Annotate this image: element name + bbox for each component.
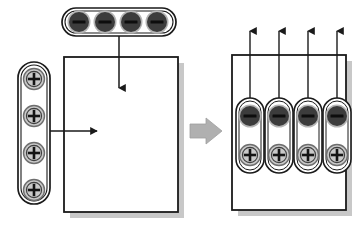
anion-ion	[94, 11, 117, 34]
ion-pair-capsule	[294, 98, 322, 173]
anion-ion	[297, 105, 320, 128]
ion-pair-capsule	[265, 98, 293, 173]
anion-ion	[146, 11, 169, 34]
anion-ion	[120, 11, 143, 34]
ion-pair-capsule	[236, 98, 264, 173]
cation-ion	[24, 69, 45, 90]
ion-pair-capsule	[323, 98, 351, 173]
anion-ion	[326, 105, 349, 128]
left-stage-group	[18, 8, 184, 218]
cation-ion	[298, 145, 319, 166]
anion-row-capsule	[62, 8, 176, 36]
anion-ion	[239, 105, 262, 128]
anion-ion	[268, 105, 291, 128]
transition-arrow	[190, 118, 222, 144]
cation-ion	[24, 180, 45, 201]
diagram-svg	[0, 0, 362, 230]
left-membrane-panel	[64, 57, 178, 212]
cation-ion	[327, 145, 348, 166]
cation-column-capsule	[18, 62, 50, 204]
right-stage-group	[232, 31, 352, 216]
cation-ion	[24, 106, 45, 127]
anion-ion	[68, 11, 91, 34]
cation-ion	[240, 145, 261, 166]
cation-ion	[24, 143, 45, 164]
diagram-canvas	[0, 0, 362, 230]
cation-ion	[269, 145, 290, 166]
